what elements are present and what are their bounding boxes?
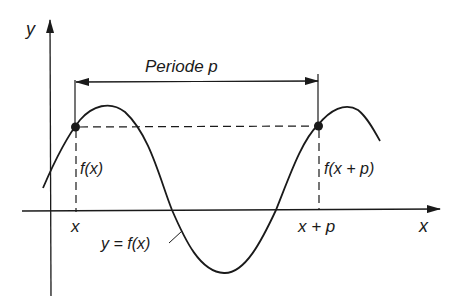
- period-arrow: [75, 74, 318, 127]
- label-fx-plus-p: f(x + p): [324, 160, 374, 177]
- label-fx: f(x): [80, 160, 103, 177]
- x-axis-label: x: [418, 216, 429, 236]
- curve-label: y = f(x): [100, 235, 150, 252]
- y-axis-label: y: [24, 19, 36, 39]
- tick-label-x: x: [70, 217, 80, 236]
- point-fx-plus-p: [314, 122, 323, 131]
- function-curve: [43, 106, 380, 273]
- x-axis: [22, 209, 440, 211]
- curve-label-leader: [169, 231, 182, 243]
- periodic-function-diagram: y x Periode p f(x) f(x + p) x x + p y = …: [0, 0, 460, 304]
- point-fx: [71, 123, 80, 132]
- dashed-guides: [76, 126, 319, 212]
- period-label: Periode p: [145, 57, 218, 76]
- tick-label-x-plus-p: x + p: [297, 217, 335, 236]
- y-axis: [50, 20, 51, 296]
